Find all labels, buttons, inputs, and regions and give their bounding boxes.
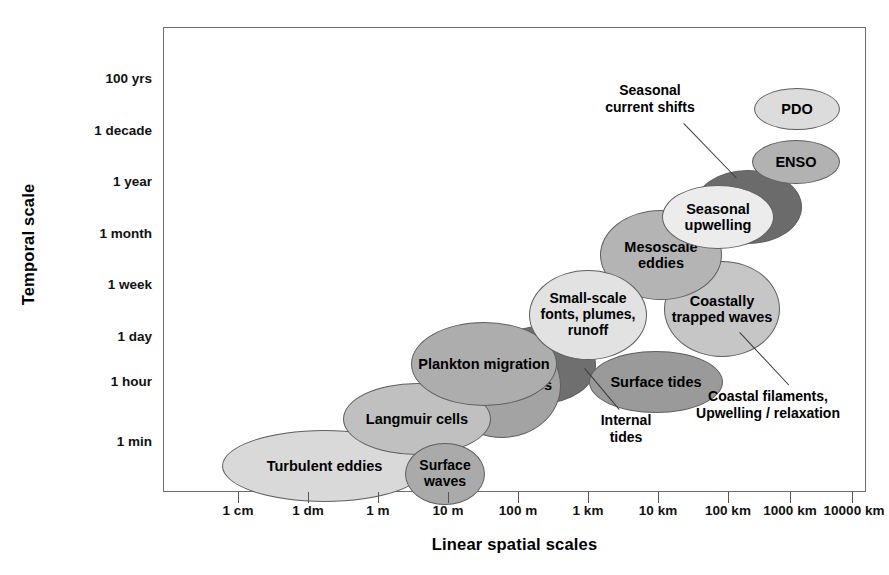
bubble-label-coastally-trapped-waves: Coastally trapped waves — [669, 293, 775, 325]
bubble-seasonal-upwelling: Seasonal upwelling — [662, 185, 774, 249]
y-tick-label-1-year: 1 year — [42, 174, 152, 189]
annotation-coastal-filaments: Coastal filaments, Upwelling / relaxatio… — [668, 388, 868, 422]
bubble-small-scale-fronts: Small-scale fonts, plumes, runoff — [529, 270, 647, 360]
x-tick-label-10000-km: 10000 km — [809, 503, 889, 518]
bubble-pdo: PDO — [754, 88, 840, 130]
bubble-label-langmuir-cells: Langmuir cells — [348, 411, 486, 427]
bubble-label-turbulent-eddies: Turbulent eddies — [227, 458, 422, 474]
y-axis-title: Temporal scale — [19, 155, 38, 335]
bubble-label-enso: ENSO — [757, 154, 835, 170]
x-tick-100-km — [728, 492, 729, 503]
bubble-label-pdo: PDO — [759, 101, 835, 117]
x-axis-title: Linear spatial scales — [163, 535, 866, 554]
y-tick-label-1-week: 1 week — [42, 277, 152, 292]
x-tick-100-m — [518, 492, 519, 503]
annotation-seasonal-current-shifts: Seasonal current shifts — [570, 82, 730, 116]
y-tick-label-1-min: 1 min — [42, 434, 152, 449]
y-tick-label-1-day: 1 day — [42, 329, 152, 344]
x-tick-1-cm — [238, 492, 239, 503]
bubble-label-small-scale-fronts: Small-scale fonts, plumes, runoff — [534, 291, 642, 338]
x-tick-1000-km — [790, 492, 791, 503]
y-tick-label-100-yrs: 100 yrs — [42, 71, 152, 86]
x-tick-10-m — [448, 492, 449, 503]
bubble-label-plankton-migration: Plankton migration — [416, 356, 552, 372]
y-tick-label-1-hour: 1 hour — [42, 374, 152, 389]
bubble-surface-waves: Surface waves — [405, 443, 485, 505]
x-tick-10-km — [658, 492, 659, 503]
x-tick-10000-km — [852, 492, 853, 503]
x-tick-1-km — [588, 492, 589, 503]
annotation-internal-tides: Internal tides — [578, 412, 674, 446]
x-tick-1-dm — [308, 492, 309, 503]
y-tick-label-1-decade: 1 decade — [42, 123, 152, 138]
y-tick-label-1-month: 1 month — [42, 226, 152, 241]
bubble-enso: ENSO — [752, 140, 840, 184]
x-tick-1-m — [378, 492, 379, 503]
bubble-label-seasonal-upwelling: Seasonal upwelling — [667, 201, 769, 233]
bubble-label-surface-waves: Surface waves — [410, 458, 480, 489]
